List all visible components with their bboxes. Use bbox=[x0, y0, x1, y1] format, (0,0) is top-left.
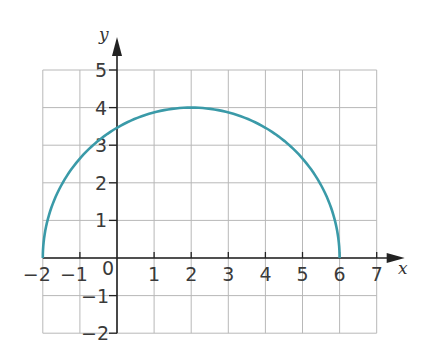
x-tick-label: −2 bbox=[23, 263, 51, 285]
y-axis-arrow-icon bbox=[112, 37, 122, 56]
y-tick-label: −1 bbox=[81, 285, 109, 307]
x-tick-label: 6 bbox=[334, 263, 346, 285]
x-tick-label: 3 bbox=[222, 263, 234, 285]
x-axis-label: x bbox=[398, 258, 408, 278]
y-tick-label: 1 bbox=[95, 209, 107, 231]
y-tick-label: −2 bbox=[81, 322, 109, 344]
x-tick-label: 7 bbox=[371, 263, 383, 285]
semicircle-graph: −2−11234567−2−1123450 x y bbox=[0, 0, 430, 362]
x-tick-label: 2 bbox=[185, 263, 197, 285]
x-tick-label: 4 bbox=[259, 263, 271, 285]
y-axis-label: y bbox=[98, 24, 109, 44]
x-tick-label: 1 bbox=[148, 263, 160, 285]
y-tick-label: 2 bbox=[95, 172, 107, 194]
x-tick-label: 5 bbox=[297, 263, 309, 285]
origin-label: 0 bbox=[102, 257, 114, 279]
x-tick-label: −1 bbox=[60, 263, 88, 285]
y-tick-label: 5 bbox=[95, 59, 107, 81]
y-tick-label: 4 bbox=[95, 97, 107, 119]
